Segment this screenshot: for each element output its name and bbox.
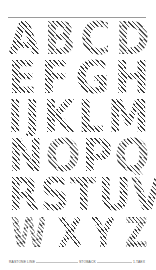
footer-right-label: 1.TAEX <box>132 259 146 265</box>
glyph-row-wxyz: W X Y Z <box>7 214 149 253</box>
footer-left-label: RASTONE LINE <box>8 259 36 265</box>
glyph-t: T <box>70 175 96 214</box>
glyph-y: Y <box>92 214 114 253</box>
glyph-row-rstuv: R S T U V <box>7 175 149 214</box>
glyph-v: V <box>132 175 156 214</box>
glyph-s: S <box>40 175 67 214</box>
glyph-u: U <box>98 175 129 214</box>
glyph-z: Z <box>124 214 146 253</box>
glyph-x: X <box>57 214 81 253</box>
glyph-r: R <box>8 175 37 214</box>
glyph-w: W <box>11 214 46 253</box>
specimen-footer: RASTONE LINE STOBACK 1.TAEX <box>8 258 146 266</box>
footer-center-label: STOBACK <box>78 259 97 265</box>
alphabet-specimen: A B C D E F G H I J K L M N O P Q R S T … <box>7 19 149 253</box>
